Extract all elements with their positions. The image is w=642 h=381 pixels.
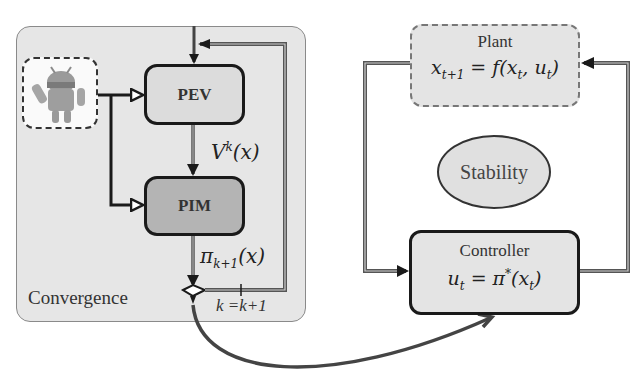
plant-block: Plant xt+1 = f(xt, ut) [410,24,580,107]
controller-block: Controller ut = π*(xt) [409,230,580,315]
stability-ellipse: Stability [437,135,551,209]
policy-label: πk+1(x) [200,244,265,271]
iteration-update-label: k =k+1 [216,296,267,316]
stability-label: Stability [460,161,528,184]
convergence-label: Convergence [28,287,128,309]
value-function-label: Vk(x) [211,140,260,164]
plant-equation: xt+1 = f(xt, ut) [412,56,578,82]
plant-title: Plant [412,32,578,52]
controller-title: Controller [412,241,577,261]
controller-equation: ut = π*(xt) [412,267,577,293]
